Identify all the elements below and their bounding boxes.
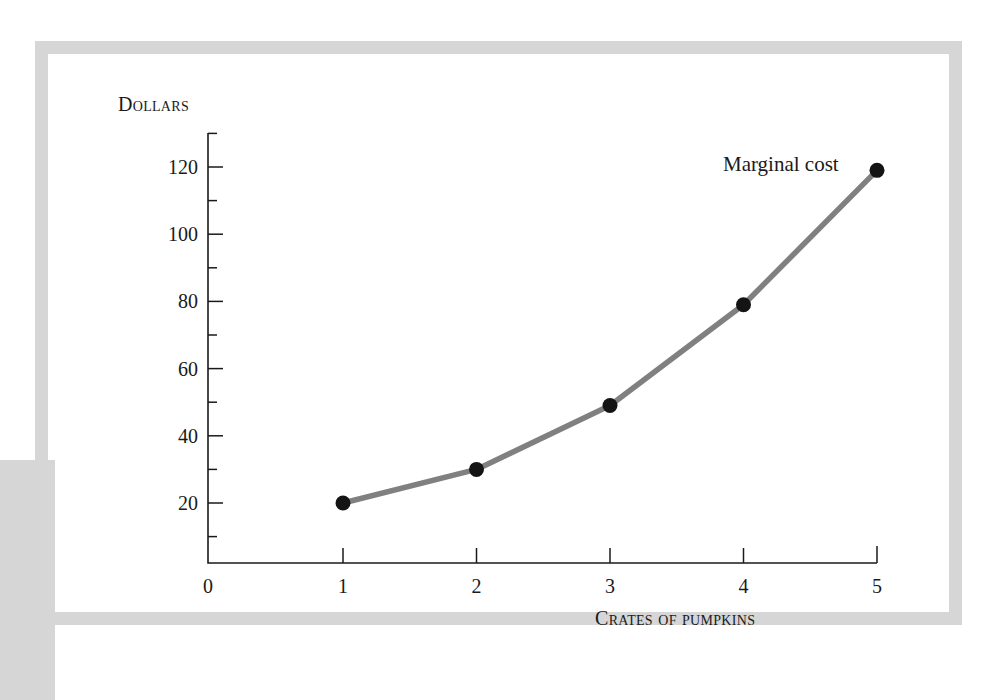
x-axis-title: Crates of pumpkins: [595, 607, 755, 630]
y-tick-label: 40: [140, 426, 198, 446]
y-tick-label: 20: [140, 493, 198, 513]
x-axis-ticks: [343, 546, 877, 563]
x-tick-label: 4: [739, 576, 749, 596]
y-tick-label: 80: [140, 291, 198, 311]
x-tick-label: 2: [472, 576, 482, 596]
axes: [208, 133, 877, 563]
data-point-marker: [736, 297, 751, 312]
data-point-marker: [336, 496, 351, 511]
x-tick-label: 5: [872, 576, 882, 596]
y-axis-title: Dollars: [118, 93, 189, 116]
marginal-cost-line-chart: 20406080100120 012345 Dollars Crates of …: [0, 0, 989, 700]
data-point-marker: [469, 462, 484, 477]
data-point-marker: [870, 163, 885, 178]
y-tick-label: 60: [140, 359, 198, 379]
series-annotation-label: Marginal cost: [723, 152, 839, 177]
y-tick-label: 120: [140, 157, 198, 177]
axis-lines: [208, 133, 877, 563]
x-tick-label: 3: [605, 576, 615, 596]
y-tick-label: 100: [140, 224, 198, 244]
series-line-marginal-cost: [343, 170, 877, 503]
x-tick-label: 1: [338, 576, 348, 596]
y-axis-ticks: [208, 133, 223, 536]
data-series-group: [336, 163, 885, 511]
x-tick-label: 0: [203, 576, 213, 596]
data-point-marker: [603, 398, 618, 413]
